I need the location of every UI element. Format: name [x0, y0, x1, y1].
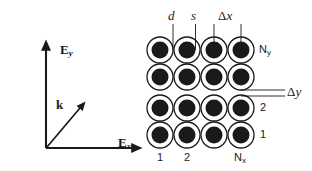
- row-index-2-label: 2: [260, 102, 266, 113]
- k-vector-label: k: [56, 98, 63, 111]
- delta-x-label: Δx: [218, 9, 232, 22]
- inner-disk: [233, 69, 250, 86]
- lattice-cell: [201, 122, 227, 148]
- inner-disk: [179, 127, 196, 144]
- lattice-cell: [228, 64, 254, 90]
- col-index-2-label: 2: [184, 152, 190, 163]
- nx-index-label: Nx: [234, 152, 246, 165]
- ny-index-label: Ny: [259, 44, 271, 57]
- d-dimension-label: d: [168, 9, 175, 22]
- lattice-group: [147, 37, 254, 148]
- lattice-row: [147, 64, 254, 90]
- k-vector-arrow: [47, 108, 80, 147]
- col-index-1-label: 1: [157, 152, 163, 163]
- inner-disk: [152, 69, 169, 86]
- lattice-cell: [228, 122, 254, 148]
- inner-disk: [179, 100, 196, 117]
- lattice-cell: [174, 37, 200, 63]
- lattice-cell: [147, 122, 173, 148]
- lattice-cell: [201, 95, 227, 121]
- row-index-1-label: 1: [260, 129, 266, 140]
- lattice-cell: [147, 37, 173, 63]
- lattice-row: [147, 37, 254, 63]
- lattice-cell: [174, 95, 200, 121]
- inner-disk: [179, 69, 196, 86]
- inner-disk: [152, 100, 169, 117]
- lattice-cell: [147, 64, 173, 90]
- ex-axis-label: Ex: [118, 136, 131, 151]
- inner-disk: [179, 42, 196, 59]
- inner-disk: [233, 127, 250, 144]
- inner-disk: [152, 42, 169, 59]
- inner-disk: [206, 127, 223, 144]
- lattice-cell: [201, 64, 227, 90]
- ey-axis-label: Ey: [60, 43, 73, 58]
- lattice-cell: [228, 95, 254, 121]
- inner-disk: [233, 100, 250, 117]
- lattice-cell: [174, 122, 200, 148]
- lattice-row: [147, 122, 254, 148]
- figure-canvas: [0, 0, 312, 171]
- lattice-cell: [147, 95, 173, 121]
- lattice-row: [147, 95, 254, 121]
- delta-y-label: Δy: [287, 85, 301, 98]
- lattice-cell: [174, 64, 200, 90]
- inner-disk: [206, 100, 223, 117]
- physics-lattice-figure: Ey Ex k d s Δx Ny Δy 2 1 1 2 Nx: [0, 0, 312, 171]
- s-dimension-label: s: [191, 9, 196, 22]
- inner-disk: [152, 127, 169, 144]
- inner-disk: [206, 69, 223, 86]
